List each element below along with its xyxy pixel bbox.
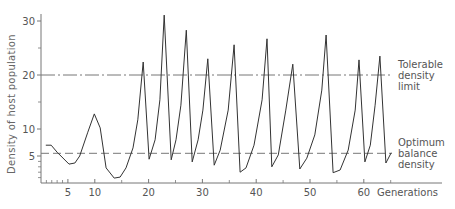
x-tick-label: 5 [65, 187, 71, 198]
y-tick-label: 5 [29, 151, 35, 162]
x-tick-label: 40 [250, 187, 263, 198]
x-tick-label: 60 [357, 187, 370, 198]
chart: 51020305102030405060 Tolerabledensitylim… [0, 0, 455, 209]
x-axis-label: Generations [377, 187, 438, 198]
series-line [46, 15, 391, 178]
series [46, 15, 391, 178]
y-tick-label: 30 [22, 16, 35, 27]
y-tick-label: 10 [22, 124, 35, 135]
x-tick-label: 20 [142, 187, 155, 198]
y-axis-label: Density of host population [6, 34, 17, 174]
optimum-balance-density-label: balance [398, 148, 437, 159]
x-tick-label: 30 [196, 187, 209, 198]
x-tick-label: 10 [88, 187, 101, 198]
x-tick-label: 50 [304, 187, 317, 198]
optimum-balance-density-label: density [398, 159, 435, 170]
tolerable-density-limit-label: density [398, 70, 435, 81]
tolerable-density-limit-label: limit [398, 81, 420, 92]
optimum-balance-density-label: Optimum [398, 137, 445, 148]
axes: 51020305102030405060 [22, 14, 442, 198]
reference-lines: TolerabledensitylimitOptimumbalancedensi… [41, 59, 445, 170]
y-tick-label: 20 [22, 70, 35, 81]
tolerable-density-limit-label: Tolerable [397, 59, 443, 70]
